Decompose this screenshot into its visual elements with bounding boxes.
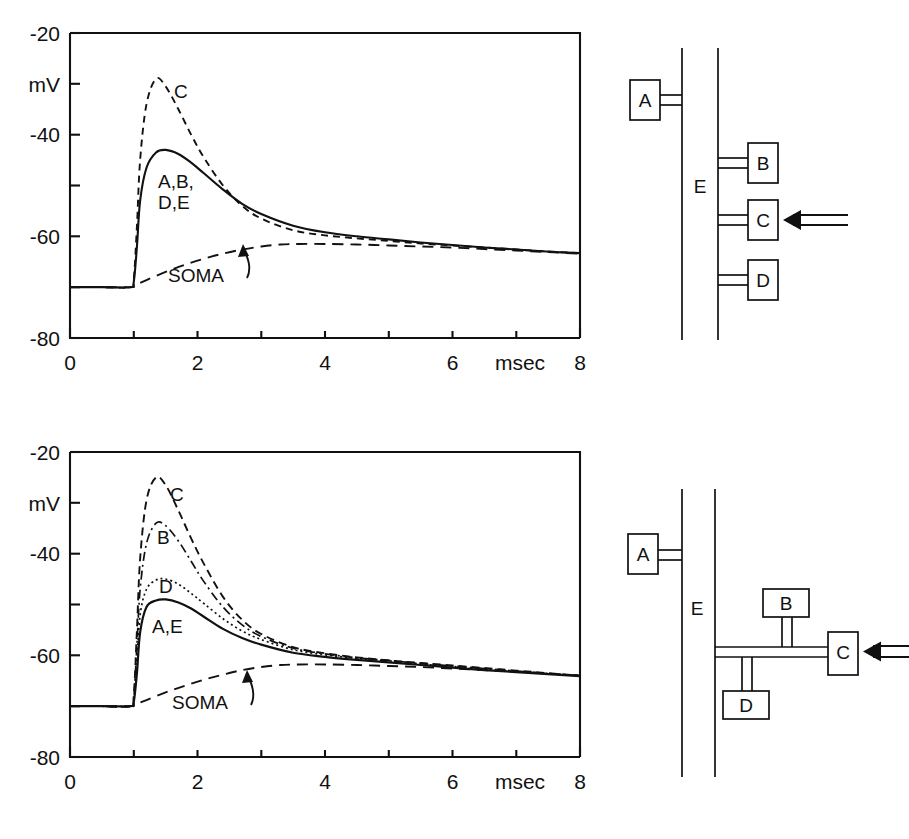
x-axis-unit-label: msec (495, 770, 545, 793)
top-chart-axes: -20 -40 -60 -80 mV 0 2 4 6 8 msec (29, 22, 586, 374)
stimulus-arrowhead-icon (783, 210, 801, 230)
xtick-label-2: 2 (192, 770, 204, 793)
axis-frame-top-right (70, 33, 580, 338)
trace-label-group-line2: D,E (158, 192, 190, 213)
bottom-chart-traces (70, 477, 580, 707)
ytick-label--60: -60 (30, 644, 60, 667)
spine-label-a: A (639, 90, 652, 111)
axis-frame-left-bottom (70, 452, 580, 757)
trace-b (70, 522, 580, 707)
xtick-label-2: 2 (192, 351, 204, 374)
ytick-label--20: -20 (30, 22, 60, 45)
spine-label-d: D (756, 270, 770, 291)
bottom-diagram: E A B D C (628, 489, 909, 777)
stimulus-arrowhead-icon (863, 642, 881, 662)
spine-label-c: C (756, 210, 770, 231)
top-chart-traces (70, 78, 580, 288)
xtick-label-0: 0 (64, 351, 76, 374)
trace-a-e (70, 599, 580, 706)
panel-top-graphic: -20 -40 -60 -80 mV 0 2 4 6 8 msec C A,B,… (0, 10, 909, 410)
soma-pointer-arrowhead (242, 670, 253, 683)
spine-label-b: B (757, 153, 770, 174)
spine-label-d: D (739, 695, 753, 716)
segment-label-e: E (691, 598, 704, 619)
trace-label-a-e: A,E (152, 616, 183, 637)
y-axis-unit-label: mV (29, 492, 61, 515)
figure-panel-top: -20 -40 -60 -80 mV 0 2 4 6 8 msec C A,B,… (0, 10, 909, 410)
trace-label-d: D (159, 576, 173, 597)
segment-label-e: E (694, 176, 707, 197)
trace-label-b: B (157, 527, 170, 548)
xtick-label-8: 8 (574, 351, 586, 374)
trace-label-group-line1: A,B, (158, 171, 194, 192)
spine-label-a: A (637, 544, 650, 565)
xtick-label-8: 8 (574, 770, 586, 793)
xtick-label-0: 0 (64, 770, 76, 793)
spine-label-b: B (780, 593, 793, 614)
xtick-label-4: 4 (319, 770, 331, 793)
axis-frame-top-right (70, 452, 580, 757)
soma-pointer-arrowhead (238, 244, 249, 257)
y-axis-unit-label: mV (29, 73, 61, 96)
ytick-label--80: -80 (30, 327, 60, 350)
axis-frame-left-bottom (70, 33, 580, 338)
ytick-label--20: -20 (30, 441, 60, 464)
top-diagram: E A B C D (630, 48, 848, 340)
x-axis-unit-label: msec (495, 351, 545, 374)
bottom-chart-axes: -20 -40 -60 -80 mV 0 2 4 6 8 msec (29, 441, 586, 793)
ytick-label--40: -40 (30, 123, 60, 146)
trace-d (70, 579, 580, 707)
figure-panel-bottom: -20 -40 -60 -80 mV 0 2 4 6 8 msec C B D … (0, 429, 909, 829)
trace-label-c: C (170, 484, 184, 505)
trace-label-c: C (174, 81, 188, 102)
trace-label-soma: SOMA (172, 692, 228, 713)
trace-label-soma: SOMA (168, 265, 224, 286)
top-chart-annotations: C A,B, D,E SOMA (158, 81, 249, 286)
trace-c (70, 78, 580, 288)
xtick-label-4: 4 (319, 351, 331, 374)
xtick-label-6: 6 (447, 351, 459, 374)
ytick-label--80: -80 (30, 746, 60, 769)
xtick-label-6: 6 (447, 770, 459, 793)
panel-bottom-graphic: -20 -40 -60 -80 mV 0 2 4 6 8 msec C B D … (0, 429, 909, 829)
ytick-label--40: -40 (30, 542, 60, 565)
trace-a-b-d-e (70, 150, 580, 288)
spine-label-c: C (836, 642, 850, 663)
trace-soma (70, 244, 580, 287)
ytick-label--60: -60 (30, 225, 60, 248)
